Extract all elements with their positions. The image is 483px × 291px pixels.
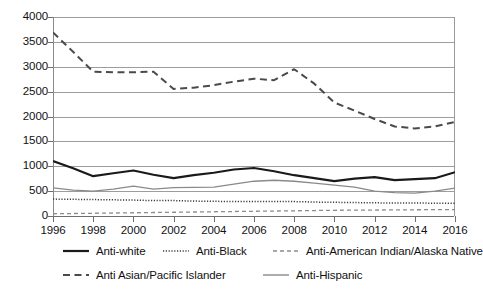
x-tick-label: 1998 (70, 224, 116, 236)
legend-line-swatch-icon (62, 270, 90, 280)
x-tick-mark (174, 216, 175, 222)
x-tick-mark (375, 216, 376, 222)
legend-line-swatch-icon (62, 246, 90, 256)
x-tick-mark (455, 216, 456, 222)
x-tick-label: 2002 (151, 224, 197, 236)
x-tick-mark (254, 216, 255, 222)
y-tick-label: 4000 (4, 11, 48, 23)
series-line-anti-white (53, 161, 455, 181)
x-tick-label: 2010 (311, 224, 357, 236)
y-tick-label: 3500 (4, 36, 48, 48)
legend-label: Anti-American Indian/Alaska Native (306, 245, 483, 257)
x-tick-label: 2000 (110, 224, 156, 236)
x-tick-label: 2014 (392, 224, 438, 236)
legend-line-swatch-icon (262, 270, 290, 280)
x-tick-label: 2006 (231, 224, 277, 236)
x-tick-mark (334, 216, 335, 222)
legend-item[interactable]: Anti-American Indian/Alaska Native (272, 243, 483, 259)
series-line-anti-black (53, 199, 455, 203)
chart-legend: Anti-whiteAnti-BlackAnti-American Indian… (0, 243, 477, 291)
legend-line-swatch-icon (272, 246, 300, 256)
legend-item[interactable]: Anti-Hispanic (262, 267, 362, 283)
series-line-anti-hispanic (53, 180, 455, 193)
y-tick-label: 1000 (4, 160, 48, 172)
x-tick-mark (294, 216, 295, 222)
x-tick-label: 1996 (30, 224, 76, 236)
legend-label: Anti-Black (196, 245, 247, 257)
legend-item[interactable]: Anti Asian/Pacific Islander (62, 267, 226, 283)
x-tick-mark (133, 216, 134, 222)
x-tick-mark (415, 216, 416, 222)
legend-item[interactable]: Anti-white (62, 243, 146, 259)
x-tick-label: 2016 (432, 224, 478, 236)
y-tick-label: 3000 (4, 61, 48, 73)
legend-label: Anti-Hispanic (296, 269, 362, 281)
legend-label: Anti-white (96, 245, 146, 257)
series-line-anti-asian-pacific-islander (53, 32, 455, 128)
x-axis: 1996199820002002200420062008201020122014… (53, 216, 455, 246)
y-axis: 05001000150020002500300035004000 (0, 17, 48, 216)
x-tick-label: 2012 (352, 224, 398, 236)
y-tick-label: 1500 (4, 135, 48, 147)
x-tick-label: 2004 (191, 224, 237, 236)
series-line-anti-american-indian-alaska-native (53, 210, 455, 214)
x-tick-mark (214, 216, 215, 222)
legend-item[interactable]: Anti-Black (162, 243, 247, 259)
x-tick-mark (53, 216, 54, 222)
y-tick-label: 500 (4, 185, 48, 197)
legend-label: Anti Asian/Pacific Islander (96, 269, 226, 281)
y-tick-label: 0 (4, 210, 48, 222)
series-layer (53, 17, 455, 216)
legend-line-swatch-icon (162, 246, 190, 256)
x-tick-label: 2008 (271, 224, 317, 236)
x-tick-mark (93, 216, 94, 222)
y-tick-label: 2000 (4, 111, 48, 123)
y-tick-label: 2500 (4, 86, 48, 98)
